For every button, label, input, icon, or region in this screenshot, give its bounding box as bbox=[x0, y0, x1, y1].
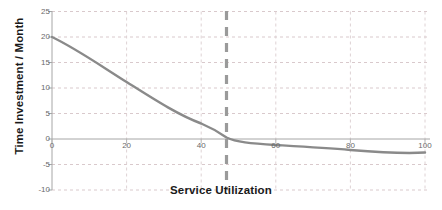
x-tick-label: 0 bbox=[32, 142, 72, 150]
y-tick-label: 5 bbox=[26, 110, 50, 118]
x-axis-title: Service Utilization bbox=[0, 184, 442, 196]
x-tick-label: 80 bbox=[330, 142, 370, 150]
vertical-gridlines bbox=[127, 12, 425, 191]
x-tick-label: 40 bbox=[181, 142, 221, 150]
horizontal-gridlines bbox=[52, 12, 430, 191]
y-tick-label: 20 bbox=[26, 33, 50, 41]
y-tick-label: 10 bbox=[26, 84, 50, 92]
y-axis-tick-labels: 25 20 15 10 5 0 -5 -10 bbox=[26, 0, 50, 210]
chart-container: Time Investment / Month 25 20 15 10 5 0 … bbox=[0, 0, 442, 210]
y-tick-label: 15 bbox=[26, 59, 50, 67]
x-tick-label: 60 bbox=[256, 142, 296, 150]
series-line-time-investment bbox=[52, 37, 425, 153]
y-tick-label: -5 bbox=[26, 161, 50, 169]
y-tick-label: 25 bbox=[26, 8, 50, 16]
x-axis-tick-labels: 0 20 40 60 80 100 bbox=[0, 142, 442, 154]
chart-plot-svg bbox=[0, 0, 442, 210]
x-tick-label: 100 bbox=[405, 142, 442, 150]
x-tick-label: 20 bbox=[107, 142, 147, 150]
